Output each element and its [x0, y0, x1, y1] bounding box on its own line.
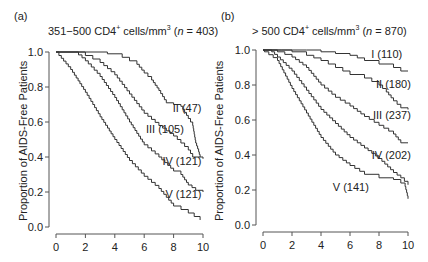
- y-tick-label: 0.0: [28, 221, 43, 233]
- y-tick-label: 0.2: [28, 186, 43, 198]
- y-tick-label: 0.4: [28, 151, 43, 163]
- curve-label: I (110): [371, 48, 402, 60]
- y-tick-label: 0.8: [235, 79, 250, 91]
- y-tick-label: 0.6: [28, 116, 43, 128]
- curve-label: II (47): [173, 102, 202, 114]
- curve-label: V (121): [165, 188, 201, 200]
- y-tick-label: 1.0: [235, 44, 250, 56]
- x-tick-label: 0: [260, 239, 266, 251]
- x-tick-label: 8: [376, 239, 382, 251]
- panel-b: (b) > 500 CD4+ cells/mm3 (n = 870) Propo…: [207, 0, 428, 262]
- y-tick-label: 0.0: [235, 219, 250, 231]
- y-tick-label: 0.6: [235, 114, 250, 126]
- x-tick-label: 8: [171, 241, 177, 253]
- curve-label: V (141): [333, 181, 369, 193]
- panel-a: (a) 351−500 CD4+ cells/mm3 (n = 403) Pro…: [0, 0, 214, 262]
- x-tick-label: 4: [318, 239, 324, 251]
- x-tick-label: 6: [347, 239, 353, 251]
- curve-label: IV (202): [372, 149, 411, 161]
- y-tick-label: 0.8: [28, 81, 43, 93]
- curve-label: IV (121): [162, 155, 201, 167]
- plot-area: 0.00.20.40.60.81.00246810II (47)III (105…: [0, 0, 214, 262]
- x-tick-label: 10: [402, 239, 414, 251]
- curve-label: II (180): [376, 78, 411, 90]
- x-tick-label: 2: [289, 239, 295, 251]
- x-tick-label: 0: [53, 241, 59, 253]
- y-tick-label: 0.2: [235, 184, 250, 196]
- curve-label: III (105): [146, 123, 184, 135]
- y-tick-label: 0.4: [235, 149, 250, 161]
- survival-curve: [263, 50, 408, 199]
- curve-label: III (237): [373, 109, 411, 121]
- x-tick-label: 4: [112, 241, 118, 253]
- x-tick-label: 6: [141, 241, 147, 253]
- plot-area: 0.00.20.40.60.81.00246810I (110)II (180)…: [207, 0, 428, 262]
- survival-curve: [56, 52, 203, 192]
- x-tick-label: 2: [82, 241, 88, 253]
- y-tick-label: 1.0: [28, 46, 43, 58]
